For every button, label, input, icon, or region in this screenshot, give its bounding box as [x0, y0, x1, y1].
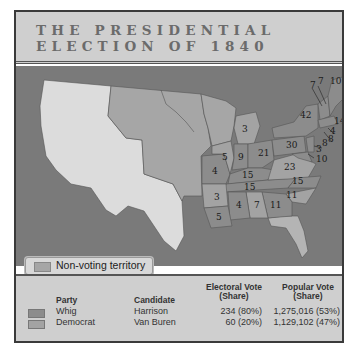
new-jersey [306, 136, 314, 152]
popular-harrison: 1,275,016 (53%) [266, 306, 340, 316]
svg-text:4: 4 [212, 166, 218, 176]
svg-text:7: 7 [310, 80, 316, 90]
svg-text:5: 5 [216, 212, 222, 222]
svg-text:10: 10 [330, 76, 342, 86]
party-democrat: Democrat [56, 317, 95, 327]
svg-text:15: 15 [292, 176, 304, 186]
democrat-swatch [28, 320, 45, 329]
results-legend: Party Candidate Electoral Vote (Share) P… [16, 274, 342, 341]
non-voting-swatch [34, 262, 51, 272]
map-frame: THE PRESIDENTIAL ELECTION OF 1840 [14, 10, 344, 343]
party-whig: Whig [56, 306, 77, 316]
title-banner: THE PRESIDENTIAL ELECTION OF 1840 [16, 12, 342, 64]
svg-text:5: 5 [222, 152, 228, 162]
header-party: Party [56, 296, 77, 305]
electoral-harrison: 234 (80%) [202, 306, 262, 316]
svg-text:7: 7 [254, 200, 260, 210]
header-electoral: Electoral Vote (Share) [194, 283, 274, 301]
svg-text:3: 3 [242, 124, 248, 134]
svg-text:10: 10 [316, 154, 328, 164]
svg-text:9: 9 [238, 152, 244, 162]
svg-text:14: 14 [334, 116, 342, 126]
svg-text:8: 8 [328, 134, 334, 144]
whig-swatch [28, 309, 45, 318]
header-popular-sub: (Share) [268, 292, 348, 301]
electoral-van-buren: 60 (20%) [202, 317, 262, 327]
non-voting-label: Non-voting territory [56, 259, 145, 271]
svg-text:11: 11 [270, 200, 281, 210]
non-voting-legend: Non-voting territory [25, 257, 153, 275]
header-candidate: Candidate [134, 296, 175, 305]
svg-text:30: 30 [286, 140, 298, 150]
election-map: 10 7 7 14 4 8 42 8 3 10 30 3 21 9 5 4 15… [16, 66, 342, 266]
svg-text:7: 7 [318, 76, 324, 86]
svg-text:21: 21 [258, 148, 269, 158]
title-line-2: ELECTION OF 1840 [36, 38, 342, 54]
svg-text:15: 15 [244, 182, 256, 192]
svg-text:3: 3 [316, 144, 322, 154]
svg-text:4: 4 [236, 200, 242, 210]
svg-text:23: 23 [284, 162, 296, 172]
popular-van-buren: 1,129,102 (47%) [266, 317, 340, 327]
svg-text:8: 8 [322, 138, 328, 148]
svg-text:15: 15 [242, 170, 254, 180]
header-popular: Popular Vote (Share) [268, 283, 348, 301]
candidate-harrison: Harrison [134, 306, 168, 316]
florida-territory [268, 216, 308, 258]
us-map-graphic: 10 7 7 14 4 8 42 8 3 10 30 3 21 9 5 4 15… [16, 66, 342, 266]
header-electoral-sub: (Share) [194, 292, 274, 301]
svg-text:3: 3 [214, 192, 220, 202]
svg-text:42: 42 [300, 110, 311, 120]
title-line-1: THE PRESIDENTIAL [36, 22, 342, 38]
candidate-van-buren: Van Buren [134, 317, 176, 327]
svg-text:11: 11 [286, 190, 297, 200]
